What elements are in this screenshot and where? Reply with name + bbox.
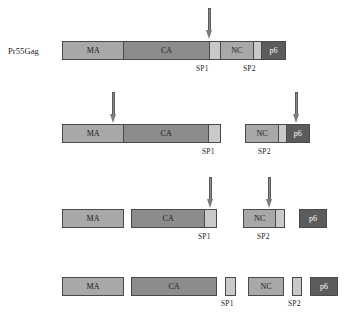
fragment-ma: MA	[62, 209, 124, 228]
domain-sp1	[210, 42, 221, 59]
domain-ca: CA	[124, 125, 209, 142]
diagram-canvas: Pr55Gag MA CA NC p6 SP1 SP2 MA CA NC p6 …	[0, 0, 352, 324]
caption-sp1-stage2: SP1	[202, 147, 215, 156]
fragment-nc-final: NC	[248, 277, 284, 296]
fragment-sp2-final	[292, 277, 302, 296]
domain-sp2	[276, 210, 284, 227]
fragment-nc-sp2-p6: NC p6	[245, 124, 310, 143]
caption-sp2-stage3: SP2	[257, 232, 270, 241]
fragment-full-precursor: MA CA NC p6	[62, 41, 286, 60]
row-label-pr55gag: Pr55Gag	[8, 46, 39, 56]
domain-ca: CA	[132, 210, 205, 227]
caption-sp2-stage1: SP2	[243, 64, 256, 73]
arrow-ma-ca-cleavage	[110, 92, 117, 124]
arrow-nc-sp2-cleavage	[266, 177, 273, 209]
domain-nc: NC	[221, 42, 255, 59]
caption-sp1-stage1: SP1	[196, 64, 209, 73]
arrow-head	[266, 199, 272, 208]
fragment-ma-ca-sp1: MA CA	[62, 124, 221, 143]
arrow-head	[293, 114, 299, 123]
domain-sp1	[209, 125, 220, 142]
caption-sp2-stage4: SP2	[288, 299, 301, 308]
arrow-shaft	[208, 8, 211, 31]
arrow-shaft	[295, 92, 298, 115]
arrow-shaft	[268, 177, 271, 200]
fragment-ca-final: CA	[131, 277, 217, 296]
domain-ma: MA	[63, 42, 124, 59]
arrow-shaft	[112, 92, 115, 115]
domain-ma: MA	[63, 125, 124, 142]
domain-p6: p6	[262, 42, 285, 59]
domain-ca: CA	[124, 42, 209, 59]
domain-nc: NC	[244, 210, 276, 227]
caption-sp1-stage3: SP1	[198, 232, 211, 241]
domain-sp1	[205, 210, 216, 227]
domain-nc: NC	[246, 125, 279, 142]
domain-p6: p6	[287, 125, 309, 142]
arrow-head	[206, 30, 212, 39]
caption-sp2-stage2: SP2	[258, 147, 271, 156]
arrow-sp1-nc-cleavage	[206, 8, 213, 40]
fragment-nc-sp2: NC	[243, 209, 285, 228]
fragment-sp1-final	[225, 277, 236, 296]
domain-sp2	[254, 42, 262, 59]
arrow-head	[110, 114, 116, 123]
fragment-ca-sp1: CA	[131, 209, 217, 228]
arrow-shaft	[209, 177, 212, 200]
arrow-ca-sp1-cleavage	[207, 177, 214, 209]
fragment-p6: p6	[299, 209, 327, 228]
caption-sp1-stage4: SP1	[221, 299, 234, 308]
arrow-sp2-p6-cleavage	[293, 92, 300, 124]
fragment-p6-final: p6	[310, 277, 338, 296]
fragment-ma-final: MA	[62, 277, 124, 296]
arrow-head	[207, 199, 213, 208]
domain-sp2	[279, 125, 287, 142]
